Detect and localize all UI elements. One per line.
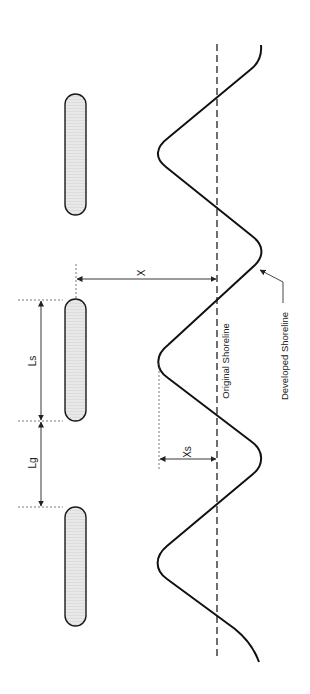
lg-label: Lg bbox=[27, 457, 38, 468]
breakwater-1 bbox=[65, 94, 86, 215]
x-label: X bbox=[136, 269, 147, 276]
breakwater-shoreline-diagram: X Ls Lg Xs Original Shoreline Developed … bbox=[0, 0, 310, 694]
original-shoreline-label: Original Shoreline bbox=[220, 323, 231, 399]
breakwater-3 bbox=[65, 507, 86, 626]
developed-shoreline-leader bbox=[260, 270, 283, 303]
xs-label: Xs bbox=[182, 446, 193, 458]
developed-shoreline-curve bbox=[158, 45, 262, 662]
ls-label: Ls bbox=[27, 356, 38, 367]
breakwater-2 bbox=[65, 299, 86, 421]
developed-shoreline-label: Developed Shoreline bbox=[279, 312, 290, 400]
